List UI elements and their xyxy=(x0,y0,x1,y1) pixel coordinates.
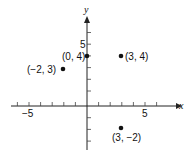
y-axis-label: y xyxy=(83,4,89,15)
point-label-neg2-3: (−2, 3) xyxy=(27,64,56,75)
x-tick-label-5: 5 xyxy=(142,108,148,119)
y-axis-arrow-icon xyxy=(84,16,90,23)
point-label-3-neg2: (3, −2) xyxy=(112,132,141,143)
y-tick-label-5: 5 xyxy=(80,39,86,50)
point-3-neg2 xyxy=(119,126,124,131)
y-ticks xyxy=(87,33,91,142)
point-label-0-4: (0, 4) xyxy=(62,51,85,62)
point-neg2-3 xyxy=(61,67,66,72)
point-0-4 xyxy=(85,54,90,59)
coordinate-plane: −5 5 5 x y (0, 4) (3, 4) (−2, 3) (3, −2) xyxy=(0,0,191,154)
x-axis-label: x xyxy=(178,100,184,111)
x-tick-label-neg5: −5 xyxy=(22,108,34,119)
point-label-3-4: (3, 4) xyxy=(125,51,148,62)
point-3-4 xyxy=(119,54,124,59)
